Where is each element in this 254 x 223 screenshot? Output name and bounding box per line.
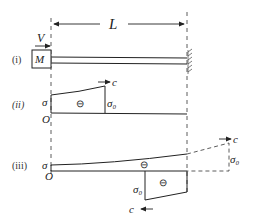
sigma-left-ii: σ: [42, 96, 48, 108]
velocity-label: V: [37, 31, 46, 45]
beam-top: [51, 57, 187, 58]
upper-profile-iii: [51, 154, 187, 171]
panel-label-iii: (iii): [12, 160, 27, 172]
mass-label: M: [34, 53, 45, 65]
panel-label-ii: (ii): [12, 99, 25, 111]
wall-hatch: [188, 49, 192, 74]
front-label-lower-iii: c: [129, 203, 134, 215]
beam-bottom: [51, 63, 187, 64]
sigma0-ext-iii: σ₀: [230, 153, 239, 165]
panel-i: (i) M V: [12, 31, 192, 74]
stress-wave-diagram: L (i) M V (ii) σ O ⊖ σ₀ c (iii): [0, 0, 254, 223]
upper-sign-iii: ⊖: [140, 159, 148, 170]
panel-label-i: (i): [12, 54, 21, 66]
panel-iii: (iii) σ O ⊖ ⊖ σ₀ c σ₀ c: [12, 133, 239, 215]
front-label-ii: c: [112, 76, 117, 88]
front-label-ext-iii: c: [233, 133, 238, 145]
lower-sign-iii: ⊖: [159, 177, 167, 188]
baseline-ii: [51, 113, 187, 114]
sign-ii: ⊖: [76, 98, 84, 109]
sigma0-lower-iii: σ₀: [133, 183, 142, 195]
dimension-L: L: [54, 16, 184, 32]
sigma0-ii: σ₀: [107, 97, 116, 109]
origin-ii: O: [42, 113, 50, 125]
extension-dashed-iii: [187, 143, 229, 171]
panel-ii: (ii) σ O ⊖ σ₀ c: [12, 76, 187, 125]
origin-iii: O: [45, 170, 53, 182]
dimension-label: L: [108, 16, 117, 32]
